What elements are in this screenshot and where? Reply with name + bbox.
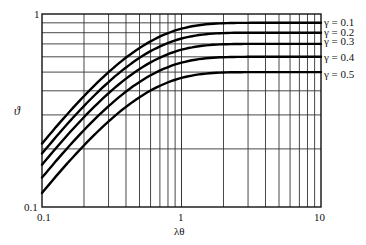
chart-canvas — [0, 0, 366, 245]
legend-gamma-0-5: γ = 0.5 — [324, 69, 354, 80]
y-tick-bottom: 0.1 — [24, 202, 38, 213]
y-axis-label: ϑ — [14, 106, 20, 117]
x-axis-label: λθ — [174, 226, 185, 237]
x-tick-right: 10 — [314, 212, 325, 223]
x-tick-left: 0.1 — [37, 212, 51, 223]
legend-gamma-0-4: γ = 0.4 — [324, 52, 354, 63]
x-tick-mid: 1 — [178, 212, 184, 223]
y-tick-top: 1 — [34, 9, 40, 20]
legend-gamma-0-3: γ = 0.3 — [324, 36, 354, 47]
